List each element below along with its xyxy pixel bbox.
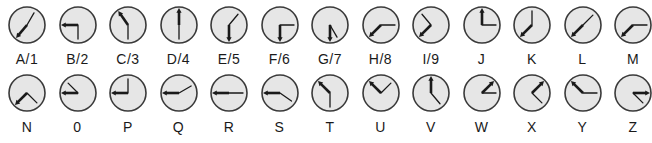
semaphore-symbol: C/3 (103, 2, 153, 70)
symbol-label: C/3 (103, 51, 153, 67)
clock-face-icon (512, 73, 552, 113)
symbol-label: Z (608, 119, 652, 135)
clock-face-icon (58, 5, 98, 45)
clock-face-icon (260, 5, 300, 45)
semaphore-symbol: E/5 (204, 2, 254, 70)
semaphore-chart: A/1B/2C/3D/4E/5F/6G/7H/8I/9JKLMN0PQRSTUV… (0, 0, 652, 143)
symbol-label: U (356, 119, 406, 135)
symbol-label: J (457, 51, 507, 67)
clock-face-icon (159, 5, 199, 45)
semaphore-symbol: N (2, 70, 52, 138)
symbol-label: 0 (53, 119, 103, 135)
symbol-label: B/2 (53, 51, 103, 67)
semaphore-symbol: V (406, 70, 456, 138)
semaphore-symbol: X (507, 70, 557, 138)
clock-face-icon (108, 5, 148, 45)
clock-face-icon (563, 73, 603, 113)
symbol-label: D/4 (154, 51, 204, 67)
clock-face-icon (209, 73, 249, 113)
semaphore-symbol: 0 (53, 70, 103, 138)
clock-face-icon (462, 5, 502, 45)
clock-face-icon (58, 73, 98, 113)
semaphore-symbol: Q (154, 70, 204, 138)
symbol-label: V (406, 119, 456, 135)
semaphore-symbol: F/6 (255, 2, 305, 70)
clock-face-icon (7, 73, 47, 113)
semaphore-symbol: Y (558, 70, 608, 138)
symbol-label: Y (558, 119, 608, 135)
clock-face-icon (361, 73, 401, 113)
semaphore-symbol: R (204, 70, 254, 138)
clock-face-icon (209, 5, 249, 45)
clock-face-icon (361, 5, 401, 45)
clock-face-icon (462, 73, 502, 113)
semaphore-symbol: J (457, 2, 507, 70)
symbol-label: N (2, 119, 52, 135)
clock-face-icon (7, 5, 47, 45)
clock-face-icon (563, 5, 603, 45)
semaphore-symbol: H/8 (356, 2, 406, 70)
semaphore-symbol: M (608, 2, 652, 70)
symbol-label: S (255, 119, 305, 135)
symbol-label: Q (154, 119, 204, 135)
clock-face-icon (613, 5, 652, 45)
semaphore-symbol: Z (608, 70, 652, 138)
semaphore-symbol: L (558, 2, 608, 70)
symbol-label: A/1 (2, 51, 52, 67)
clock-face-icon (260, 73, 300, 113)
symbol-label: K (507, 51, 557, 67)
semaphore-symbol: S (255, 70, 305, 138)
clock-face-icon (310, 73, 350, 113)
clock-face-icon (159, 73, 199, 113)
clock-face-icon (310, 5, 350, 45)
symbol-label: X (507, 119, 557, 135)
symbol-label: M (608, 51, 652, 67)
semaphore-symbol: P (103, 70, 153, 138)
semaphore-symbol: W (457, 70, 507, 138)
symbol-label: G/7 (305, 51, 355, 67)
symbol-label: T (305, 119, 355, 135)
symbol-label: W (457, 119, 507, 135)
clock-face-icon (108, 73, 148, 113)
semaphore-symbol: T (305, 70, 355, 138)
semaphore-symbol: U (356, 70, 406, 138)
clock-face-icon (411, 5, 451, 45)
semaphore-symbol: B/2 (53, 2, 103, 70)
semaphore-symbol: G/7 (305, 2, 355, 70)
symbol-label: P (103, 119, 153, 135)
semaphore-symbol: K (507, 2, 557, 70)
semaphore-symbol: A/1 (2, 2, 52, 70)
symbol-label: E/5 (204, 51, 254, 67)
clock-face-icon (411, 73, 451, 113)
symbol-label: R (204, 119, 254, 135)
semaphore-symbol: D/4 (154, 2, 204, 70)
symbol-label: L (558, 51, 608, 67)
symbol-label: I/9 (406, 51, 456, 67)
symbol-label: H/8 (356, 51, 406, 67)
clock-face-icon (613, 73, 652, 113)
clock-face-icon (512, 5, 552, 45)
symbol-label: F/6 (255, 51, 305, 67)
semaphore-symbol: I/9 (406, 2, 456, 70)
